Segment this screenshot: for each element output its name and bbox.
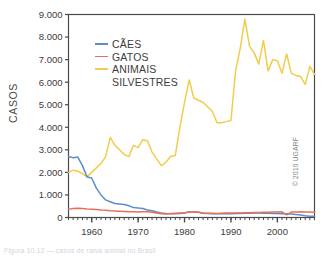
- copyright-text: © 2010 UGARF: [292, 125, 299, 199]
- legend-item-caes: CÃES: [95, 38, 178, 51]
- y-tick-label: 8.000: [39, 31, 63, 42]
- figure-caption: Figura 10.12 — casos de raiva animal no …: [4, 247, 325, 256]
- legend-item-animais-silvestres-cont: SILVESTRES: [95, 76, 178, 89]
- x-tick-label: 2000: [267, 226, 288, 237]
- legend-item-gatos: GATOS: [95, 51, 178, 64]
- x-tick-label: 1980: [174, 226, 195, 237]
- y-tick-label: 3.000: [39, 144, 63, 155]
- legend-label-animais: ANIMAIS: [112, 63, 157, 76]
- y-tick-label: 6.000: [39, 77, 63, 88]
- legend-swatch-animais-silvestres: [95, 63, 108, 75]
- legend-swatch-caes: [95, 38, 108, 50]
- y-tick-label: 9.000: [39, 9, 63, 20]
- legend-label-gatos: GATOS: [112, 51, 149, 64]
- y-tick-label: 4.000: [39, 122, 63, 133]
- y-tick-label: 0: [57, 212, 62, 223]
- legend-swatch-gatos: [95, 51, 108, 63]
- x-tick-label: 1970: [128, 226, 149, 237]
- chart-legend: CÃES GATOS ANIMAIS SILVESTRES: [95, 38, 178, 88]
- y-tick-label: 7.000: [39, 54, 63, 65]
- x-tick-label: 1990: [220, 226, 241, 237]
- y-tick-label: 2.000: [39, 167, 63, 178]
- figure-container: CASOS 01.0002.0003.0004.0005.0006.0007.0…: [0, 0, 329, 256]
- y-tick-label: 1.000: [39, 189, 63, 200]
- copyright-notice: © 2010 UGARF: [288, 128, 302, 202]
- x-tick-label: 1960: [81, 226, 102, 237]
- legend-label-silvestres: SILVESTRES: [112, 76, 178, 89]
- legend-label-caes: CÃES: [112, 38, 141, 51]
- legend-item-animais-silvestres: ANIMAIS: [95, 63, 178, 76]
- series-line-c-es: [69, 157, 315, 217]
- y-tick-label: 5.000: [39, 99, 63, 110]
